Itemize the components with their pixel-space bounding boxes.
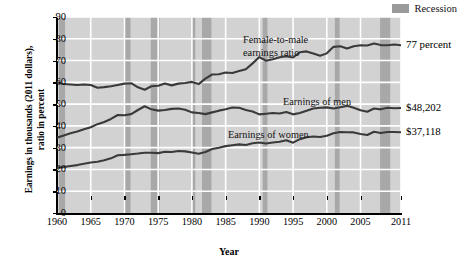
recession-band (202, 17, 211, 213)
x-tick-mark (226, 196, 227, 200)
x-tick-mark (401, 196, 402, 200)
recession-swatch-icon (392, 4, 409, 13)
y-tick-mark (53, 169, 57, 170)
end-label-men: $48,202 (406, 101, 441, 113)
y-tick-mark (53, 148, 57, 149)
y-tick-mark (53, 191, 57, 192)
y-tick-mark (53, 104, 57, 105)
recession-band (380, 17, 390, 213)
series-label-men: Earnings of men (283, 96, 351, 109)
x-tick-mark (293, 196, 294, 200)
legend-label-recession: Recession (414, 3, 457, 14)
y-tick-mark (53, 213, 57, 214)
chart-legend: Recession (392, 3, 457, 14)
y-tick-mark (53, 126, 57, 127)
x-tick-mark (91, 196, 92, 200)
series-label-ratio-line1: Female-to-male (243, 34, 308, 45)
chart-figure: Recession Earnings in thousands (2011 do… (0, 0, 471, 267)
end-label-ratio: 77 percent (406, 38, 451, 50)
y-tick-mark (53, 39, 57, 40)
x-axis-title: Year (57, 246, 401, 257)
end-label-women: $37,118 (406, 125, 441, 137)
x-tick-label: 2005 (341, 216, 381, 227)
series-label-ratio-line2: earnings ratio (243, 47, 299, 58)
x-tick-mark (158, 196, 159, 200)
y-tick-mark (53, 17, 57, 18)
x-tick-mark (361, 196, 362, 200)
x-tick-mark (57, 196, 58, 200)
x-axis-line (56, 213, 402, 215)
chart-canvas (57, 17, 401, 213)
recession-band (59, 17, 65, 213)
series-label-women: Earnings of women (228, 129, 309, 142)
x-tick-mark (124, 196, 125, 200)
x-tick-label: 2011 (381, 216, 421, 227)
y-tick-mark (53, 82, 57, 83)
plot-area (57, 17, 401, 213)
y-axis-title-line1: Earnings in thousands (2011 dollars), (24, 46, 34, 194)
series-label-ratio: Female-to-male earnings ratio (243, 34, 308, 59)
x-tick-mark (327, 196, 328, 200)
x-tick-mark (192, 196, 193, 200)
x-tick-mark (259, 196, 260, 200)
y-tick-mark (53, 61, 57, 62)
